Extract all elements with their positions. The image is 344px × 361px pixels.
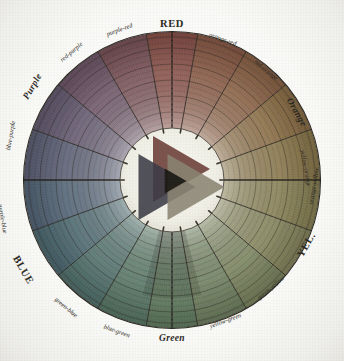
sector-label-green: Green xyxy=(159,333,185,343)
sector-label-red: RED xyxy=(160,18,184,29)
plate-background: REDorange-redred-orangeOrangeyellow-oran… xyxy=(0,0,344,361)
colour-wheel-svg xyxy=(20,28,324,332)
sector-label-purple-blue: purple-blue xyxy=(0,203,10,234)
sector-label-blue-purple: blue-purple xyxy=(4,120,16,151)
sector-label-text: Green xyxy=(159,333,185,343)
sector-label-text: purple-blue xyxy=(0,203,10,234)
colour-wheel: REDorange-redred-orangeOrangeyellow-oran… xyxy=(20,28,324,332)
sector-label-text: RED xyxy=(160,18,184,29)
sector-label-text: blue-purple xyxy=(4,120,16,151)
